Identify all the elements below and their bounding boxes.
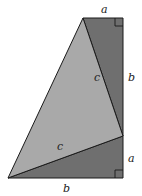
label-top-a: a [101, 3, 108, 16]
label-right-b: b [128, 71, 135, 84]
label-lower-c: c [57, 140, 63, 153]
label-bottom-b: b [63, 182, 70, 195]
garfield-trapezoid-diagram: a b c c a b [0, 0, 142, 196]
label-right-a: a [128, 152, 135, 165]
diagram-canvas: a b c c a b [0, 0, 142, 196]
label-upper-c: c [94, 71, 100, 84]
